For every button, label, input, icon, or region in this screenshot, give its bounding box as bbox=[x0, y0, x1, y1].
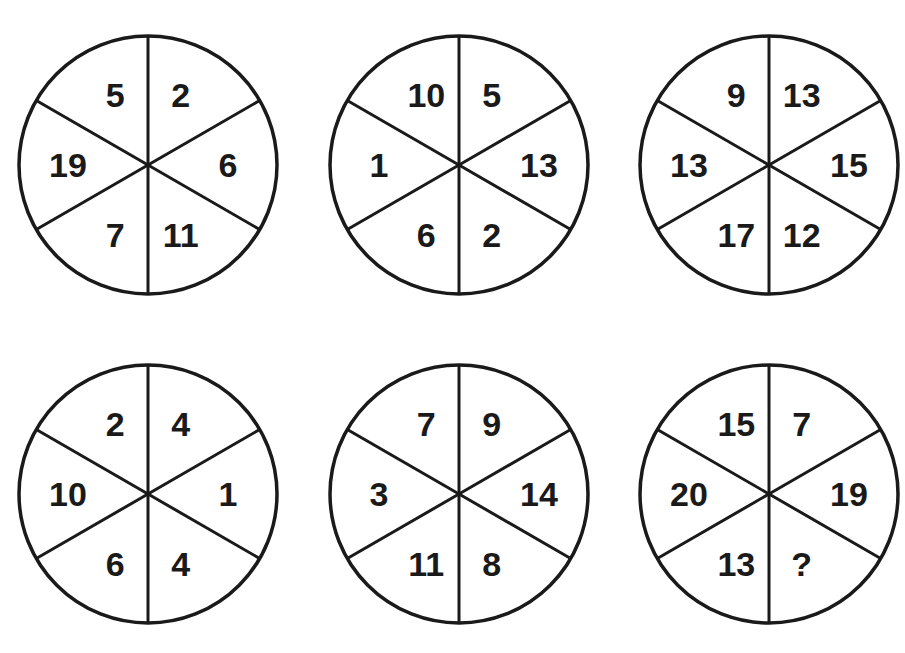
number-wheel-3: 91315121713 bbox=[640, 36, 898, 294]
segment-value-right: 6 bbox=[219, 146, 238, 184]
segment-value-right: 13 bbox=[520, 146, 558, 184]
segment-value-bottom-right: 4 bbox=[171, 545, 190, 583]
segment-value-left: 10 bbox=[49, 475, 87, 513]
segment-value-top-left: 10 bbox=[407, 76, 445, 114]
number-wheel-4: 2414610 bbox=[19, 365, 277, 623]
number-wheel-2: 10513261 bbox=[330, 36, 588, 294]
segment-value-left: 1 bbox=[370, 146, 389, 184]
segment-value-bottom-left: 11 bbox=[408, 545, 444, 583]
segment-value-top-right: 9 bbox=[482, 405, 501, 443]
segment-value-top-left: 2 bbox=[106, 405, 125, 443]
segment-value-right: 1 bbox=[219, 475, 238, 513]
puzzle-canvas: 5261171910513261913151217132414610791481… bbox=[0, 0, 905, 653]
segment-value-right: 15 bbox=[830, 146, 868, 184]
segment-value-top-left: 9 bbox=[727, 76, 746, 114]
segment-value-top-right: 5 bbox=[482, 76, 501, 114]
segment-value-top-right: 4 bbox=[171, 405, 190, 443]
segment-value-top-left: 7 bbox=[417, 405, 436, 443]
segment-value-bottom-right: 8 bbox=[482, 545, 501, 583]
number-wheel-1: 52611719 bbox=[19, 36, 277, 294]
segment-value-bottom-right: 2 bbox=[482, 216, 501, 254]
segment-value-left: 20 bbox=[670, 475, 708, 513]
segment-value-bottom-right: 12 bbox=[783, 216, 821, 254]
segment-value-top-right: 13 bbox=[783, 76, 821, 114]
segment-value-left: 19 bbox=[49, 146, 87, 184]
segment-value-right: 14 bbox=[520, 475, 558, 513]
segment-value-bottom-right: 11 bbox=[163, 216, 199, 254]
segment-value-bottom-left: 6 bbox=[417, 216, 436, 254]
segment-value-bottom-left: 7 bbox=[106, 216, 125, 254]
segment-value-top-left: 5 bbox=[106, 76, 125, 114]
number-wheel-5: 79148113 bbox=[330, 365, 588, 623]
segment-value-bottom-left: 13 bbox=[717, 545, 755, 583]
segment-value-bottom-left: 6 bbox=[106, 545, 125, 583]
segment-value-top-right: 2 bbox=[171, 76, 190, 114]
segment-value-left: 3 bbox=[370, 475, 389, 513]
segment-value-right: 19 bbox=[830, 475, 868, 513]
segment-value-left: 13 bbox=[670, 146, 708, 184]
missing-value-question-mark: ? bbox=[791, 545, 812, 583]
segment-value-top-right: 7 bbox=[792, 405, 811, 443]
segment-value-top-left: 15 bbox=[717, 405, 755, 443]
segment-value-bottom-left: 17 bbox=[717, 216, 755, 254]
number-wheel-6: 15719?1320 bbox=[640, 365, 898, 623]
